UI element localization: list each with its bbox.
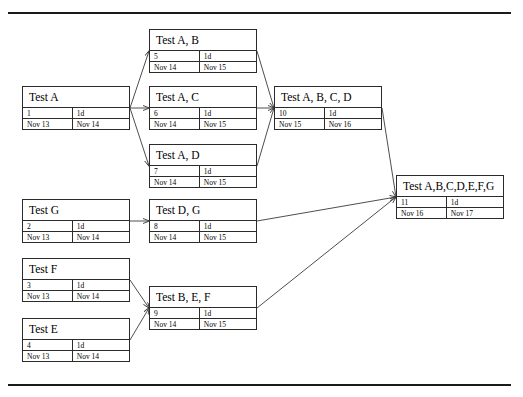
task-node-finish-date: Nov 15 [200,177,256,188]
task-node-finish-date: Nov 17 [447,208,503,219]
task-node-dates-row: Nov 14Nov 15 [150,232,256,243]
task-node-id: 9 [150,308,200,318]
frame-top-rule [8,12,511,14]
task-node-id: 11 [397,197,447,207]
task-node-start-date: Nov 14 [150,62,200,73]
task-node-dates-row: Nov 14Nov 15 [150,177,256,188]
task-node-id: 6 [150,108,200,118]
task-node-name: Test E [23,319,129,340]
task-node-name: Test A, B [150,30,256,51]
task-node-duration: 1d [200,166,256,176]
task-node-dates-row: Nov 13Nov 14 [23,291,129,302]
task-node-finish-date: Nov 16 [325,119,381,130]
task-node-finish-date: Nov 15 [200,319,256,330]
task-node-start-date: Nov 16 [397,208,447,219]
task-node-id: 10 [275,108,325,118]
task-node-finish-date: Nov 15 [200,119,256,130]
task-node-name: Test D, G [150,200,256,221]
task-node-id: 7 [150,166,200,176]
edge-test-f-to-test-bef [130,280,149,308]
task-node-name: Test A, D [150,145,256,166]
task-node-finish-date: Nov 14 [73,232,129,243]
task-node-test-e[interactable]: Test E41dNov 13Nov 14 [22,318,130,362]
task-node-test-a[interactable]: Test A11dNov 13Nov 14 [22,86,130,130]
task-node-start-date: Nov 13 [23,351,73,362]
task-node-id: 2 [23,221,73,231]
task-node-id-duration-row: 111d [397,197,503,208]
task-node-duration: 1d [200,308,256,318]
task-node-dates-row: Nov 14Nov 15 [150,62,256,73]
task-node-start-date: Nov 14 [150,119,200,130]
task-node-duration: 1d [73,108,129,118]
task-node-test-ad[interactable]: Test A, D71dNov 14Nov 15 [149,144,257,188]
task-node-finish-date: Nov 15 [200,62,256,73]
task-node-dates-row: Nov 13Nov 14 [23,119,129,130]
task-node-test-abcdefg[interactable]: Test A,B,C,D,E,F,G111dNov 16Nov 17 [396,175,504,219]
task-node-name: Test B, E, F [150,287,256,308]
task-node-dates-row: Nov 14Nov 15 [150,119,256,130]
task-node-duration: 1d [73,221,129,231]
task-node-start-date: Nov 14 [150,232,200,243]
edge-test-bef-to-test-abcdefg [257,197,396,308]
task-node-finish-date: Nov 14 [73,351,129,362]
edge-test-abcd-to-test-abcdefg [382,108,396,197]
task-node-test-abcd[interactable]: Test A, B, C, D101dNov 15Nov 16 [274,86,382,130]
task-node-name: Test A,B,C,D,E,F,G [397,176,503,197]
task-node-start-date: Nov 13 [23,232,73,243]
task-node-id-duration-row: 51d [150,51,256,62]
frame-bottom-rule [8,384,511,386]
task-node-name: Test A, B, C, D [275,87,381,108]
edge-test-a-to-test-ab [130,51,149,108]
task-node-duration: 1d [447,197,503,207]
task-node-name: Test G [23,200,129,221]
task-node-duration: 1d [73,280,129,290]
task-node-dates-row: Nov 13Nov 14 [23,351,129,362]
task-node-test-g[interactable]: Test G21dNov 13Nov 14 [22,199,130,243]
edge-test-ab-to-test-abcd [257,51,274,108]
task-node-test-ab[interactable]: Test A, B51dNov 14Nov 15 [149,29,257,73]
task-node-start-date: Nov 14 [150,177,200,188]
task-node-id-duration-row: 41d [23,340,129,351]
task-node-test-ac[interactable]: Test A, C61dNov 14Nov 15 [149,86,257,130]
task-node-name: Test A [23,87,129,108]
task-node-id: 1 [23,108,73,118]
task-node-finish-date: Nov 14 [73,119,129,130]
task-node-duration: 1d [200,51,256,61]
task-node-id: 3 [23,280,73,290]
task-node-id-duration-row: 101d [275,108,381,119]
task-node-dates-row: Nov 15Nov 16 [275,119,381,130]
task-node-id-duration-row: 61d [150,108,256,119]
task-node-id: 4 [23,340,73,350]
task-node-duration: 1d [200,108,256,118]
edge-test-ad-to-test-abcd [257,108,274,166]
task-node-id-duration-row: 81d [150,221,256,232]
diagram-canvas: Test A11dNov 13Nov 14Test G21dNov 13Nov … [0,0,523,397]
task-node-test-f[interactable]: Test F31dNov 13Nov 14 [22,258,130,302]
task-node-duration: 1d [200,221,256,231]
task-node-dates-row: Nov 14Nov 15 [150,319,256,330]
task-node-dates-row: Nov 16Nov 17 [397,208,503,219]
task-node-id-duration-row: 31d [23,280,129,291]
task-node-duration: 1d [73,340,129,350]
task-node-id: 5 [150,51,200,61]
task-node-finish-date: Nov 15 [200,232,256,243]
task-node-id-duration-row: 71d [150,166,256,177]
task-node-start-date: Nov 13 [23,119,73,130]
task-node-finish-date: Nov 14 [73,291,129,302]
task-node-start-date: Nov 13 [23,291,73,302]
task-node-id: 8 [150,221,200,231]
task-node-id-duration-row: 11d [23,108,129,119]
task-node-id-duration-row: 91d [150,308,256,319]
edge-test-dg-to-test-abcdefg [257,197,396,221]
task-node-id-duration-row: 21d [23,221,129,232]
task-node-name: Test A, C [150,87,256,108]
task-node-start-date: Nov 15 [275,119,325,130]
task-node-duration: 1d [325,108,381,118]
task-node-test-dg[interactable]: Test D, G81dNov 14Nov 15 [149,199,257,243]
task-node-start-date: Nov 14 [150,319,200,330]
task-node-name: Test F [23,259,129,280]
edge-test-a-to-test-ad [130,108,149,166]
edge-test-e-to-test-bef [130,308,149,340]
task-node-dates-row: Nov 13Nov 14 [23,232,129,243]
task-node-test-bef[interactable]: Test B, E, F91dNov 14Nov 15 [149,286,257,330]
